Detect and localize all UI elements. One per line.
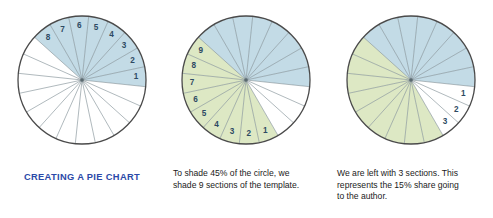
section-number: 1	[134, 72, 139, 81]
section-number: 3	[122, 41, 127, 50]
caption-line: shade 9 sections of the template.	[173, 180, 325, 192]
pie-svg-1: 12345678	[7, 6, 157, 158]
section-number: 7	[190, 78, 195, 87]
section-number: 6	[193, 95, 198, 104]
section-number: 7	[60, 25, 65, 34]
caption-3: We are left with 3 sections. Thisreprese…	[337, 168, 491, 203]
pie-svg-3: 123	[336, 6, 486, 158]
pie-chart-1: 12345678	[0, 6, 164, 158]
pie-svg-2: 123456789	[171, 6, 321, 158]
pie-chart-3: 123	[329, 6, 493, 158]
caption-line: CREATING A PIE CHART	[0, 172, 164, 184]
section-number: 1	[263, 126, 268, 135]
caption-line: To shade 45% of the circle, we	[173, 168, 325, 180]
pie-center-dot-1	[80, 78, 84, 82]
section-number: 4	[109, 30, 114, 39]
section-number: 3	[230, 127, 235, 136]
pie-center-dot-3	[409, 78, 413, 82]
caption-line: We are left with 3 sections. This	[337, 168, 491, 180]
section-number: 3	[443, 117, 448, 126]
caption-line: represents the 15% share going	[337, 180, 491, 192]
section-number: 6	[77, 21, 82, 30]
section-number: 8	[46, 33, 51, 42]
section-number: 8	[192, 61, 197, 70]
section-number: 4	[214, 120, 219, 129]
panel-creating-a-pie-chart: 12345678 CREATING A PIE CHART	[0, 0, 164, 218]
pie-chart-2: 123456789	[164, 6, 328, 158]
section-number: 5	[202, 109, 207, 118]
section-number: 2	[247, 129, 252, 138]
pie-center-dot-2	[244, 78, 248, 82]
section-number: 1	[461, 89, 466, 98]
caption-1: CREATING A PIE CHART	[0, 172, 164, 184]
caption-line: to the author.	[337, 191, 491, 203]
panel-remaining-three-sections: 123 We are left with 3 sections. Thisrep…	[329, 0, 493, 218]
figure-sheet: 12345678 CREATING A PIE CHART 123456789 …	[0, 0, 493, 218]
section-number: 2	[454, 105, 459, 114]
section-number: 9	[198, 46, 203, 55]
caption-2: To shade 45% of the circle, weshade 9 se…	[173, 168, 325, 191]
panel-shade-45-percent: 123456789 To shade 45% of the circle, we…	[164, 0, 328, 218]
section-number: 5	[94, 23, 99, 32]
section-number: 2	[130, 56, 135, 65]
